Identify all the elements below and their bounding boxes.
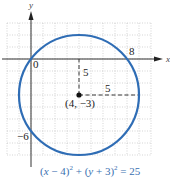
radius-horizontal-label: 5 bbox=[105, 83, 111, 94]
x-axis-label: x bbox=[166, 55, 170, 64]
y-axis-label: y bbox=[29, 1, 33, 10]
y-axis-arrow-icon bbox=[29, 11, 34, 20]
x-axis-arrow-icon bbox=[154, 57, 163, 62]
circle-equation: (x − 4)2 + (y + 3)2 = 25 bbox=[40, 164, 140, 177]
radius-vertical-label: 5 bbox=[83, 67, 89, 78]
y-intercept-label: −6 bbox=[17, 131, 29, 142]
origin-label: 0 bbox=[33, 59, 39, 70]
x-intercept-label: 8 bbox=[129, 46, 135, 57]
center-label: (4, −3) bbox=[65, 98, 95, 109]
circle-graph bbox=[0, 0, 170, 182]
